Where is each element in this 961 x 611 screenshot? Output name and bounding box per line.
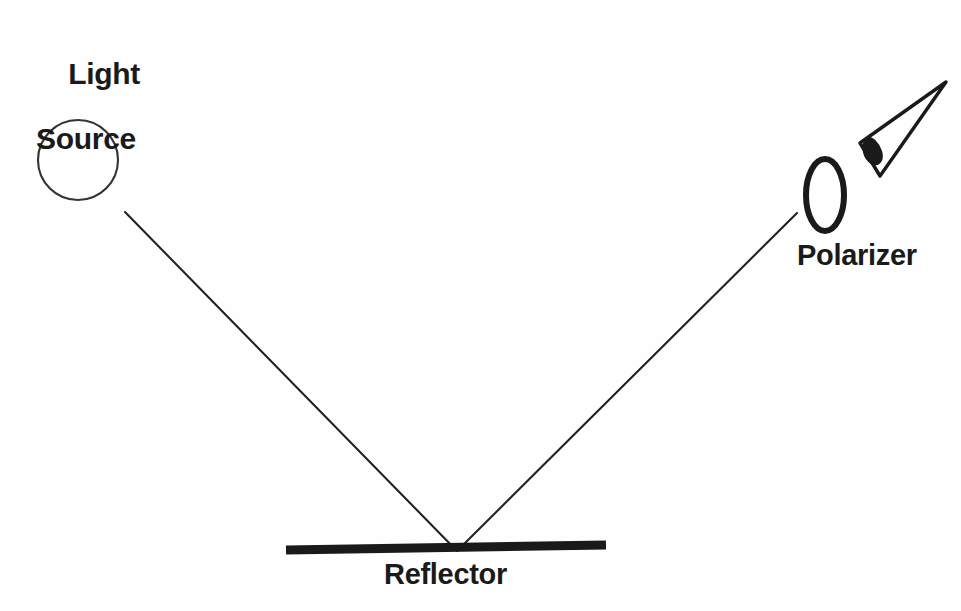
polarizer-label: Polarizer: [797, 240, 917, 271]
diagram-canvas: [0, 0, 961, 611]
incident-ray-line: [125, 212, 457, 551]
optics-diagram: Light Source Polarizer Reflector: [0, 0, 961, 611]
reflector-label: Reflector: [384, 559, 507, 590]
light-source-label-line2: Source: [36, 123, 140, 155]
light-source-label: Light Source: [36, 26, 140, 220]
reflected-ray-line: [457, 213, 797, 551]
light-source-label-line1: Light: [68, 57, 140, 90]
eye-icon: [860, 82, 946, 176]
polarizer-ellipse-icon: [806, 159, 844, 231]
reflector-bar-icon: [286, 545, 606, 550]
